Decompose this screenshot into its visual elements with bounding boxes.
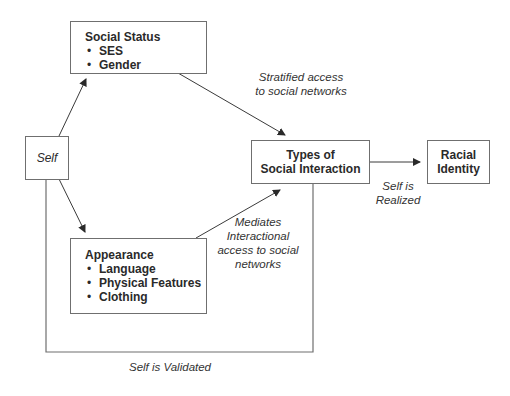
appearance-title: Appearance: [85, 248, 206, 262]
arrow-self-to-social-status: [59, 79, 86, 136]
social-interaction-title-line1: Types of: [286, 148, 334, 162]
social-status-title: Social Status: [85, 30, 206, 44]
social-interaction-node: Types of Social Interaction: [251, 140, 370, 184]
appearance-item: •Physical Features: [85, 276, 206, 290]
racial-identity-node: Racial Identity: [427, 140, 490, 184]
self-realized-label: Self is Realized: [368, 179, 428, 207]
arrow-self-to-appearance: [59, 179, 85, 232]
social-status-item: •SES: [85, 44, 206, 58]
social-status-item: •Gender: [85, 58, 206, 72]
stratified-access-label: Stratified access to social networks: [236, 70, 366, 98]
mediates-access-label: Mediates Interactional access to social …: [208, 215, 308, 271]
appearance-item: •Clothing: [85, 290, 206, 304]
self-validated-label: Self is Validated: [115, 360, 225, 374]
appearance-item: •Language: [85, 262, 206, 276]
appearance-node: Appearance •Language •Physical Features …: [70, 238, 207, 314]
self-node: Self: [25, 136, 69, 180]
social-interaction-title-line2: Social Interaction: [260, 162, 360, 176]
social-status-node: Social Status •SES •Gender: [70, 21, 207, 74]
racial-identity-line2: Identity: [437, 162, 480, 176]
self-label: Self: [37, 151, 58, 165]
racial-identity-line1: Racial: [441, 148, 476, 162]
